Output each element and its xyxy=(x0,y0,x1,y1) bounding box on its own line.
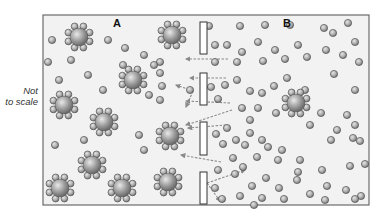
small-molecule xyxy=(355,58,362,65)
membrane-segment xyxy=(200,122,207,155)
small-molecule xyxy=(322,46,329,53)
small-molecule xyxy=(250,201,257,208)
small-molecule xyxy=(318,166,325,173)
small-molecule xyxy=(349,134,356,141)
small-molecule xyxy=(351,195,358,202)
small-molecule xyxy=(223,124,230,131)
small-molecule xyxy=(346,162,353,169)
small-molecule xyxy=(351,86,358,93)
small-molecule xyxy=(330,70,337,77)
small-molecule xyxy=(264,143,271,150)
small-molecule xyxy=(223,41,230,48)
small-molecule xyxy=(246,129,253,136)
small-molecule xyxy=(294,41,301,48)
small-molecule xyxy=(306,190,313,197)
small-molecule xyxy=(221,81,228,88)
small-molecule xyxy=(218,195,225,202)
small-molecule xyxy=(67,56,74,63)
small-molecule xyxy=(238,48,245,55)
small-molecule xyxy=(296,156,303,163)
small-molecule xyxy=(104,36,111,43)
small-molecule xyxy=(258,89,265,96)
membrane-segment xyxy=(200,172,207,204)
small-molecule xyxy=(99,86,106,93)
small-molecule xyxy=(361,160,368,167)
membrane-segment xyxy=(200,73,207,105)
small-molecule xyxy=(156,96,163,103)
small-molecule xyxy=(246,116,253,123)
small-molecule xyxy=(229,154,236,161)
small-molecule xyxy=(135,131,142,138)
not-to-scale-note: Not to scale xyxy=(0,85,38,107)
small-molecule xyxy=(231,170,238,177)
small-molecule xyxy=(262,174,269,181)
solute-core xyxy=(55,96,73,114)
small-molecule xyxy=(48,36,55,43)
small-molecule xyxy=(158,82,165,89)
small-molecule xyxy=(278,146,285,153)
small-molecule xyxy=(343,111,350,118)
small-molecule xyxy=(236,192,243,199)
small-molecule xyxy=(306,121,313,128)
compartment-label-a: A xyxy=(113,17,121,29)
small-molecule xyxy=(293,176,300,183)
solute-core xyxy=(163,26,181,44)
small-molecule xyxy=(274,156,281,163)
small-molecule xyxy=(323,182,330,189)
small-molecule xyxy=(281,55,288,62)
small-molecule xyxy=(351,121,358,128)
small-molecule xyxy=(275,184,282,191)
small-molecule xyxy=(329,29,336,36)
small-molecule xyxy=(342,186,349,193)
solute-core xyxy=(83,156,101,174)
small-molecule xyxy=(317,109,324,116)
solute-core xyxy=(159,173,177,191)
small-molecule xyxy=(294,168,301,175)
small-molecule xyxy=(211,184,218,191)
small-molecule xyxy=(327,136,334,143)
small-molecule xyxy=(233,58,240,65)
small-molecule xyxy=(219,140,226,147)
small-molecule xyxy=(254,104,261,111)
small-molecule xyxy=(55,76,62,83)
small-molecule xyxy=(233,76,240,83)
small-molecule xyxy=(321,196,328,203)
small-molecule xyxy=(271,46,278,53)
small-molecule xyxy=(272,109,279,116)
small-molecule xyxy=(333,126,340,133)
small-molecule xyxy=(238,104,245,111)
small-molecule xyxy=(211,58,218,65)
small-molecule xyxy=(270,82,277,89)
solute-core xyxy=(70,28,88,46)
small-molecule xyxy=(258,136,265,143)
small-molecule xyxy=(186,86,193,93)
small-molecule xyxy=(259,57,266,64)
small-molecule xyxy=(253,153,260,160)
note-line-2: to scale xyxy=(0,96,38,107)
solute-core xyxy=(51,179,69,197)
small-molecule xyxy=(150,61,157,68)
small-molecule xyxy=(246,87,253,94)
small-molecule xyxy=(344,19,351,26)
small-molecule xyxy=(351,38,358,45)
small-molecule xyxy=(84,71,91,78)
small-molecule xyxy=(140,146,147,153)
small-molecule xyxy=(121,44,128,51)
small-molecule xyxy=(44,58,51,65)
small-molecule xyxy=(212,130,219,137)
small-molecule xyxy=(145,91,152,98)
small-molecule xyxy=(258,194,265,201)
small-molecule xyxy=(248,182,255,189)
small-molecule xyxy=(241,141,248,148)
small-molecule xyxy=(214,166,221,173)
small-molecule xyxy=(214,95,221,102)
small-molecule xyxy=(80,136,87,143)
small-molecule xyxy=(140,51,147,58)
small-molecule xyxy=(320,24,327,31)
solute-core xyxy=(113,179,131,197)
small-molecule xyxy=(283,74,290,81)
small-molecule xyxy=(339,51,346,58)
solute-core xyxy=(124,71,142,89)
osmosis-diagram: A B Not to scale xyxy=(0,0,379,215)
small-molecule xyxy=(261,21,268,28)
